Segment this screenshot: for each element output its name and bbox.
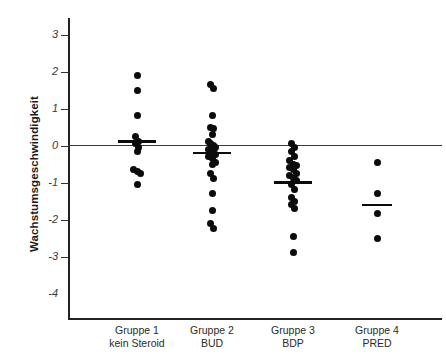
y-tick-label: -3: [34, 251, 58, 262]
data-point: [291, 205, 298, 212]
mean-line: [118, 140, 156, 142]
y-tick-2: 2: [0, 66, 58, 78]
y-tick-label: -1: [34, 177, 58, 188]
data-point: [134, 72, 141, 79]
data-point: [209, 131, 216, 138]
x-category-sublabel: PRED: [329, 337, 425, 350]
mean-line: [362, 204, 392, 206]
data-point: [210, 225, 217, 232]
x-category-3: Gruppe 3BDP: [245, 324, 341, 349]
y-tick-label: 1: [34, 103, 58, 114]
scatter-plot-figure: Wachstumsgeschwindigkeit 3210-1-2-3-4 Gr…: [0, 0, 446, 357]
data-point: [209, 161, 216, 168]
data-point: [134, 181, 141, 188]
mean-line: [274, 181, 312, 183]
data-point: [374, 235, 381, 242]
x-category-name: Gruppe 2: [190, 324, 234, 336]
zero-reference-line: [68, 145, 442, 146]
y-tick-label: 2: [34, 66, 58, 77]
x-axis-line: [68, 318, 442, 320]
data-point: [209, 112, 216, 119]
data-point: [374, 190, 381, 197]
mean-line: [193, 152, 231, 154]
data-point: [209, 207, 216, 214]
data-point: [134, 87, 141, 94]
y-tick-3: 3: [0, 29, 58, 41]
y-tick--3: -3: [0, 251, 58, 263]
data-point: [210, 85, 217, 92]
data-point: [210, 175, 217, 182]
y-axis-line: [68, 18, 70, 319]
data-point: [134, 112, 141, 119]
data-point: [290, 233, 297, 240]
y-tick-0: 0: [0, 140, 58, 152]
x-category-name: Gruppe 4: [355, 324, 399, 336]
data-point: [137, 170, 144, 177]
data-point: [291, 186, 298, 193]
x-category-4: Gruppe 4PRED: [329, 324, 425, 349]
data-point: [134, 148, 141, 155]
y-tick-1: 1: [0, 103, 58, 115]
x-category-name: Gruppe 1: [115, 324, 159, 336]
y-tick-label: -2: [34, 214, 58, 225]
x-category-sublabel: BDP: [245, 337, 341, 350]
y-tick-label: 0: [34, 140, 58, 151]
data-point: [374, 210, 381, 217]
data-point: [290, 249, 297, 256]
data-point: [209, 190, 216, 197]
y-tick-label: 3: [34, 29, 58, 40]
y-tick--4: -4: [0, 288, 58, 300]
x-category-name: Gruppe 3: [271, 324, 315, 336]
y-tick--1: -1: [0, 177, 58, 189]
y-tick--2: -2: [0, 214, 58, 226]
y-tick-label: -4: [34, 288, 58, 299]
data-point: [374, 159, 381, 166]
